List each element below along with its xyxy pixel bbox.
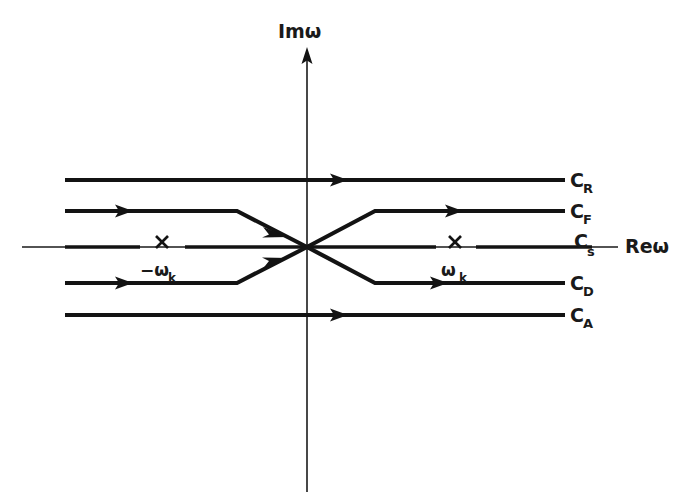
imaginary-axis-label: Imω — [278, 20, 321, 42]
contour-c-r-label-sub: R — [583, 181, 593, 196]
contour-c-f-group — [65, 205, 565, 248]
contour-c-f-label: C F — [570, 200, 592, 227]
real-axis-label: Reω — [625, 235, 669, 257]
contour-c-s-label-main: C — [574, 230, 588, 252]
contour-c-a-label-main: C — [570, 304, 584, 326]
contour-c-d-arrowhead-diagonal — [262, 258, 288, 269]
contour-c-d-label-main: C — [570, 272, 584, 294]
contour-c-a-label-sub: A — [583, 316, 593, 331]
complex-plane-svg: Imω Reω C R C F C s C D C A −ω — [0, 0, 681, 494]
pole-positive-omega-k-label-sub: k — [459, 271, 468, 285]
axes-group — [22, 47, 618, 492]
contour-c-d-label: C D — [570, 272, 594, 299]
pole-negative-omega-k-label-sub: k — [168, 271, 177, 285]
contour-c-d-label-sub: D — [583, 284, 594, 299]
contour-c-a-label: C A — [570, 304, 593, 331]
contour-c-s-label-sub: s — [587, 244, 595, 259]
contour-c-a-group — [65, 309, 565, 322]
contour-diagram-figure: Imω Reω C R C F C s C D C A −ω — [0, 0, 681, 494]
contour-c-f-path — [65, 211, 565, 247]
contour-c-r-group — [65, 174, 565, 187]
contour-c-r-label-main: C — [570, 169, 584, 191]
contour-c-f-label-sub: F — [583, 212, 592, 227]
contour-c-s-label: C s — [574, 230, 595, 259]
contour-c-f-label-main: C — [570, 200, 584, 222]
pole-negative-omega-k-label-main: −ω — [140, 260, 169, 280]
contour-c-r-label: C R — [570, 169, 593, 196]
pole-positive-omega-k-label-main: ω — [441, 260, 456, 280]
